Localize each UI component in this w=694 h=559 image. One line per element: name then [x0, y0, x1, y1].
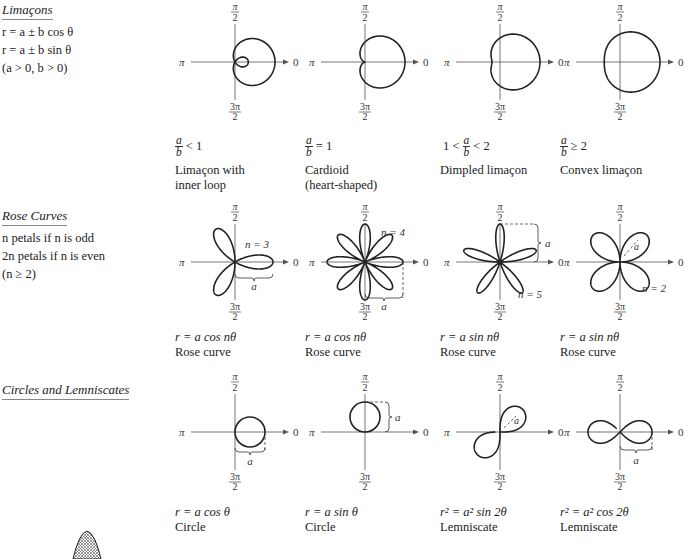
svg-text:2: 2 — [233, 481, 238, 490]
svg-text:2: 2 — [363, 12, 368, 23]
svg-text:2: 2 — [618, 481, 623, 490]
svg-text:π: π — [444, 256, 450, 268]
svg-text:0: 0 — [423, 56, 429, 68]
caption-line: Convex limaçon — [560, 163, 642, 178]
caption-line: Rose curve — [440, 345, 499, 360]
caption-cardioid: ab= 1Cardioid(heart-shaped) — [305, 135, 377, 193]
graph-circle-cos: 0ππ23π2a — [165, 370, 305, 490]
equation: r = a cos nθ — [175, 330, 236, 345]
polar-plot: 0ππ23π2an = 3 — [165, 200, 305, 320]
svg-text:2: 2 — [498, 111, 503, 120]
polar-plot: 0ππ23π2an = 4 — [295, 200, 435, 320]
svg-text:π: π — [179, 56, 185, 68]
svg-text:n = 3: n = 3 — [245, 238, 269, 250]
equation: r = a cos θ — [175, 505, 230, 520]
caption-rose-cos-4: r = a cos nθRose curve — [305, 330, 366, 360]
svg-text:2: 2 — [363, 311, 368, 320]
svg-text:π: π — [232, 371, 238, 382]
svg-text:2: 2 — [498, 12, 503, 23]
svg-text:a: a — [247, 455, 253, 467]
condition: 1 < ab< 2 — [440, 135, 527, 163]
equation: r = a sin nθ — [560, 330, 619, 345]
caption-line: inner loop — [175, 178, 245, 193]
polar-plot: 0ππ23π2 — [295, 0, 435, 120]
svg-text:n = 4: n = 4 — [381, 226, 405, 238]
svg-text:π: π — [309, 56, 315, 68]
section-title-circles-lemniscates: Circles and Lemniscates — [2, 382, 129, 400]
svg-text:2: 2 — [233, 212, 238, 223]
graph-circle-sin: 0ππ23π2a — [295, 370, 435, 490]
svg-text:π: π — [362, 1, 368, 12]
graph-rose-cos-4: 0ππ23π2an = 4 — [295, 200, 435, 320]
caption-circle-sin: r = a sin θCircle — [305, 505, 358, 535]
svg-text:2: 2 — [498, 311, 503, 320]
fraction: ab — [175, 135, 183, 158]
graph-cardioid: 0ππ23π2 — [295, 0, 435, 120]
polar-plot: 0ππ23π2 — [165, 0, 305, 120]
svg-text:0: 0 — [423, 426, 429, 438]
svg-text:π: π — [617, 371, 623, 382]
svg-text:π: π — [617, 1, 623, 12]
polar-plot: 0ππ23π2 — [430, 0, 570, 120]
polar-plot: 0ππ23π2a — [550, 370, 690, 490]
polar-plot: 0ππ23π2a — [165, 370, 305, 490]
svg-text:π: π — [564, 256, 570, 268]
caption-rose-sin-2: r = a sin nθRose curve — [560, 330, 619, 360]
svg-text:2: 2 — [618, 12, 623, 23]
svg-text:π: π — [309, 256, 315, 268]
svg-text:a: a — [395, 411, 401, 423]
polar-plot: 0ππ23π2an = 2 — [550, 200, 690, 320]
caption-line: Lemniscate — [560, 520, 629, 535]
equation: r² = a² sin 2θ — [440, 505, 507, 520]
svg-text:2: 2 — [618, 382, 623, 393]
svg-text:π: π — [444, 56, 450, 68]
svg-text:2: 2 — [363, 111, 368, 120]
svg-text:π: π — [564, 426, 570, 438]
svg-text:π: π — [232, 1, 238, 12]
equation: r = a sin nθ — [440, 330, 499, 345]
svg-text:π: π — [497, 371, 503, 382]
caption-rose-sin-5: r = a sin nθRose curve — [440, 330, 499, 360]
caption-line: Dimpled limaçon — [440, 163, 527, 178]
caption-line: Rose curve — [560, 345, 619, 360]
condition: ab= 1 — [305, 135, 377, 163]
graph-limacon-inner-loop: 0ππ23π2 — [165, 0, 305, 120]
svg-text:π: π — [497, 201, 503, 212]
graph-rose-sin-2: 0ππ23π2an = 2 — [550, 200, 690, 320]
caption-line: Cardioid — [305, 163, 377, 178]
caption-line: Rose curve — [305, 345, 366, 360]
caption-line: Rose curve — [175, 345, 236, 360]
svg-text:2: 2 — [618, 311, 623, 320]
graph-rose-sin-5: 0ππ23π2an = 5 — [430, 200, 570, 320]
graph-rose-cos-3: 0ππ23π2an = 3 — [165, 200, 305, 320]
caption-circle-cos: r = a cos θCircle — [175, 505, 230, 535]
limacon-equation-cos: r = a ± b cos θ — [2, 24, 73, 40]
svg-text:n = 2: n = 2 — [642, 282, 666, 294]
polar-plot: 0ππ23π2an = 5 — [430, 200, 570, 320]
graph-convex-limacon: 0ππ23π2 — [550, 0, 690, 120]
graph-dimpled-limacon: 0ππ23π2 — [430, 0, 570, 120]
fraction: ab — [560, 135, 568, 158]
svg-text:2: 2 — [233, 311, 238, 320]
svg-text:2: 2 — [618, 111, 623, 120]
equation: r = a sin θ — [305, 505, 358, 520]
polar-plot: 0ππ23π2a — [430, 370, 570, 490]
caption-convex-limacon: ab≥ 2Convex limaçon — [560, 135, 642, 178]
svg-text:0: 0 — [423, 256, 429, 268]
svg-text:2: 2 — [233, 111, 238, 120]
section-title-limacons: Limaçons — [2, 2, 53, 20]
rose-odd-rule: n petals if n is odd — [2, 230, 94, 246]
svg-text:2: 2 — [363, 382, 368, 393]
equation: r = a cos nθ — [305, 330, 366, 345]
svg-text:π: π — [232, 201, 238, 212]
svg-text:π: π — [362, 371, 368, 382]
decorative-shape-icon — [67, 529, 107, 559]
svg-text:0: 0 — [678, 56, 684, 68]
svg-text:2: 2 — [498, 382, 503, 393]
svg-text:a: a — [514, 415, 519, 426]
caption-line: (heart-shaped) — [305, 178, 377, 193]
rose-even-rule: 2n petals if n is even — [2, 248, 105, 264]
svg-text:π: π — [179, 256, 185, 268]
caption-lemniscate-sin: r² = a² sin 2θLemniscate — [440, 505, 507, 535]
svg-text:π: π — [362, 201, 368, 212]
